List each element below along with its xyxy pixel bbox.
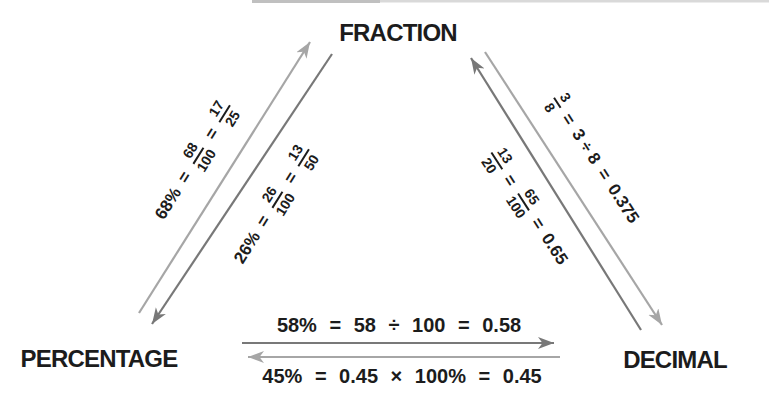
equals-sign: =: [526, 214, 548, 233]
equals-sign: =: [201, 125, 223, 144]
equals-sign: =: [280, 169, 302, 188]
page-edge-artifact: [252, 0, 380, 3]
node-decimal: DECIMAL: [623, 346, 727, 374]
conversion-percent-to-decimal: 58% = 58 ÷ 100 = 0.58: [277, 314, 521, 337]
conversion-decimal-to-percent: 45% = 0.45 × 100% = 0.45: [262, 365, 541, 388]
equals-sign: =: [592, 165, 614, 184]
equals-sign: =: [557, 110, 579, 129]
equals-sign: =: [174, 168, 196, 187]
page-edge-artifact: [380, 0, 769, 3]
conversion-triangle-diagram: FRACTION PERCENTAGE DECIMAL 68% = 68 100…: [0, 0, 769, 413]
node-percentage: PERCENTAGE: [21, 345, 178, 373]
node-fraction: FRACTION: [339, 19, 457, 47]
equals-sign: =: [498, 171, 520, 190]
equals-sign: =: [253, 212, 275, 231]
